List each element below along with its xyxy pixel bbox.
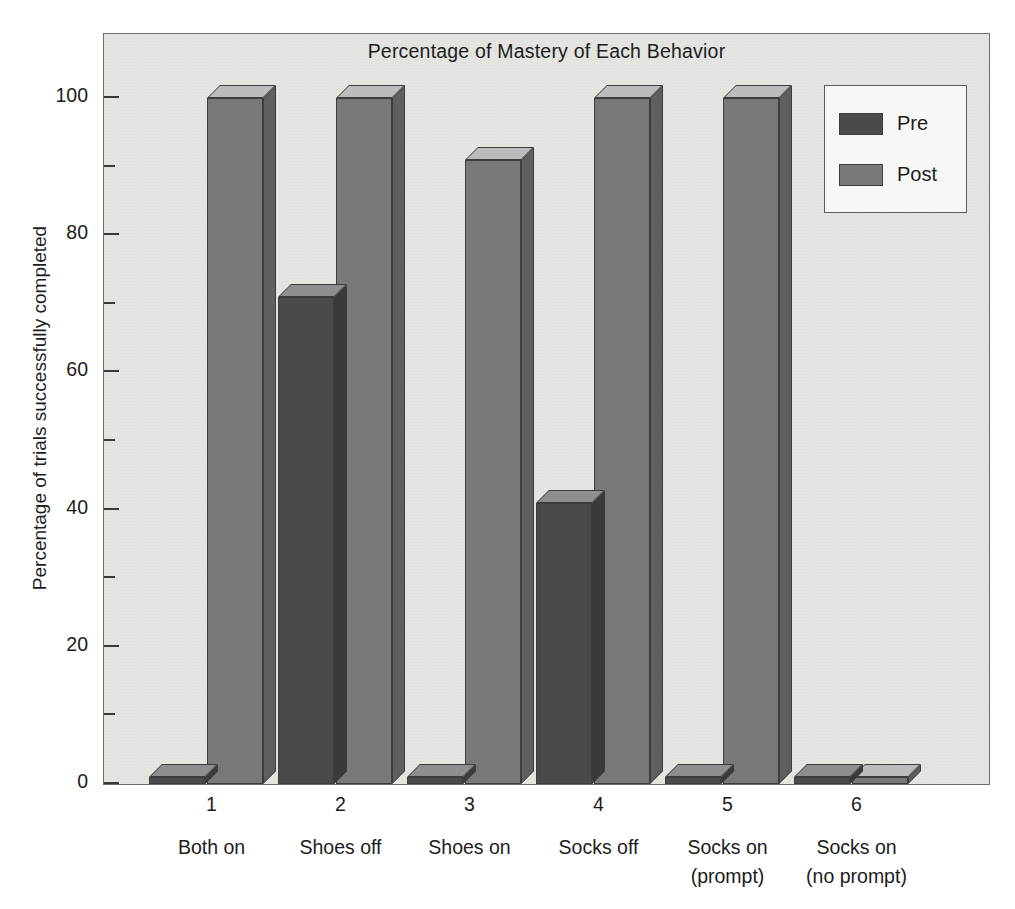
y-tick-label-20: 20 [32, 633, 88, 656]
x-tick-number-6: 6 [787, 793, 927, 816]
bar-front-face [149, 777, 205, 784]
x-tick-number-2: 2 [271, 793, 411, 816]
y-tick-label-40: 40 [32, 496, 88, 519]
x-tick-number-4: 4 [529, 793, 669, 816]
x-tick-label-6: Socks on(no prompt) [772, 833, 942, 891]
y-tick-label-0: 0 [32, 770, 88, 793]
x-tick-label-line: (no prompt) [772, 862, 942, 891]
legend-entry-post: Post [839, 163, 937, 186]
bar-front-face [665, 777, 721, 784]
bar-side-face [334, 284, 347, 784]
legend-entry-pre: Pre [839, 112, 928, 135]
y-tick-major-0 [104, 782, 119, 784]
bar-front-face [536, 503, 592, 784]
chart-title: Percentage of Mastery of Each Behavior [103, 40, 990, 63]
legend-label-pre: Pre [897, 112, 928, 135]
legend-swatch-post [839, 164, 883, 186]
chart-figure: Percentage of Mastery of Each Behavior P… [0, 0, 1015, 909]
bar-side-face [650, 85, 663, 784]
bar-front-face [407, 777, 463, 784]
y-tick-minor-10 [104, 713, 115, 715]
bar-front-face [207, 98, 263, 784]
bar-post-5 [723, 85, 779, 784]
y-tick-label-100: 100 [32, 84, 88, 107]
bar-pre-3 [407, 764, 463, 784]
chart-legend: Pre Post [824, 85, 967, 213]
bar-front-face [852, 777, 908, 784]
x-tick-number-5: 5 [658, 793, 798, 816]
y-tick-major-60 [104, 370, 119, 372]
bar-front-face [465, 160, 521, 784]
bar-post-3 [465, 147, 521, 784]
bar-side-face [521, 147, 534, 784]
bar-pre-1 [149, 764, 205, 784]
bar-pre-6 [794, 764, 850, 784]
bar-side-face [263, 85, 276, 784]
y-tick-minor-90 [104, 165, 115, 167]
y-tick-label-80: 80 [32, 221, 88, 244]
y-tick-major-40 [104, 508, 119, 510]
y-tick-minor-50 [104, 439, 115, 441]
bar-side-face [779, 85, 792, 784]
y-tick-major-80 [104, 233, 119, 235]
x-tick-label-line: Socks on [772, 833, 942, 862]
legend-label-post: Post [897, 163, 937, 186]
bar-pre-5 [665, 764, 721, 784]
x-tick-number-1: 1 [142, 793, 282, 816]
bar-front-face [794, 777, 850, 784]
y-tick-major-100 [104, 96, 119, 98]
x-tick-number-3: 3 [400, 793, 540, 816]
y-tick-major-20 [104, 645, 119, 647]
bar-side-face [392, 85, 405, 784]
bar-front-face [723, 98, 779, 784]
y-tick-minor-70 [104, 302, 115, 304]
y-tick-minor-30 [104, 576, 115, 578]
bar-post-1 [207, 85, 263, 784]
bar-pre-4 [536, 490, 592, 784]
y-tick-label-60: 60 [32, 358, 88, 381]
legend-swatch-pre [839, 113, 883, 135]
bar-pre-2 [278, 284, 334, 784]
bar-side-face [592, 490, 605, 784]
bar-front-face [278, 297, 334, 784]
